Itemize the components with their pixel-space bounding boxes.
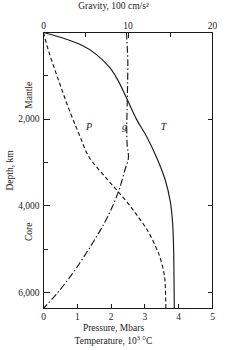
bottom-tick-label: 4: [176, 312, 181, 322]
top-tick-label: 10: [123, 21, 133, 31]
earth-interior-chart: Gravity, 100 cm/s² Pressure, Mbars Tempe…: [0, 0, 227, 350]
y-axis: 2,0004,0006,000: [18, 76, 212, 298]
curve-label-P: P: [85, 121, 92, 132]
curve-label-T: T: [161, 121, 168, 132]
bottom-axis-title-temperature: Temperature, 103 °C: [0, 334, 227, 346]
y-axis-title: Depth, km: [5, 150, 15, 191]
bottom-axis-title-pressure: Pressure, Mbars: [0, 323, 227, 333]
top-axis-title: Gravity, 100 cm/s²: [0, 1, 227, 11]
y-tick-label: 6,000: [18, 288, 40, 298]
temperature-label-suffix: °C: [140, 336, 153, 346]
top-tick-label: 0: [41, 21, 46, 31]
top-tick-label: 20: [208, 21, 218, 31]
curve-T: [44, 33, 175, 309]
plot-area: 010200123452,0004,0006,000Depth, kmMantl…: [0, 0, 227, 350]
y-tick-label: 2,000: [18, 114, 40, 124]
bottom-tick-label: 1: [75, 312, 80, 322]
bottom-tick-label: 0: [41, 312, 46, 322]
bottom-tick-label: 2: [109, 312, 114, 322]
bottom-tick-label: 3: [143, 312, 148, 322]
top-axis: 01020: [41, 21, 217, 38]
bottom-axis: 012345: [41, 304, 215, 322]
curve-P: [44, 33, 166, 309]
y-tick-label: 4,000: [18, 201, 40, 211]
region-label-core: Core: [24, 223, 34, 241]
bottom-tick-label: 5: [210, 312, 215, 322]
temperature-label-prefix: Temperature, 10: [75, 336, 137, 346]
region-label-mantle: Mantle: [24, 82, 34, 109]
curve-label-g: g: [122, 121, 127, 132]
